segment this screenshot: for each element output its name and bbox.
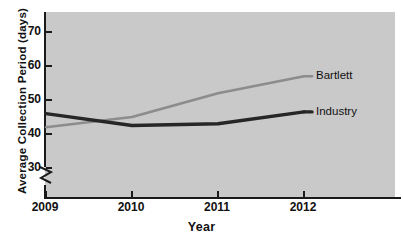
legend-label-industry: Industry bbox=[316, 106, 357, 118]
y-tick-70 bbox=[46, 31, 52, 33]
legend-label-bartlett: Bartlett bbox=[316, 70, 352, 82]
x-axis-title: Year bbox=[0, 220, 403, 234]
y-tick-40 bbox=[46, 133, 52, 135]
y-axis-line bbox=[44, 12, 46, 167]
x-tick-label-2012: 2012 bbox=[273, 201, 333, 213]
x-tick-label-2010: 2010 bbox=[101, 201, 161, 213]
y-tick-30 bbox=[46, 167, 52, 169]
y-tick-60 bbox=[46, 65, 52, 67]
x-tick-label-2009: 2009 bbox=[15, 201, 75, 213]
x-tick-2010 bbox=[131, 191, 133, 197]
x-axis-line bbox=[44, 197, 401, 199]
x-tick-label-2011: 2011 bbox=[187, 201, 247, 213]
chart-container: 70 60 50 40 30 2009 2010 2011 2012 Avera… bbox=[0, 0, 403, 243]
x-tick-2011 bbox=[217, 191, 219, 197]
x-tick-2009 bbox=[45, 191, 47, 197]
y-axis-title: Average Collection Period (days) bbox=[16, 1, 28, 201]
y-tick-50 bbox=[46, 99, 52, 101]
x-tick-2012 bbox=[303, 191, 305, 197]
